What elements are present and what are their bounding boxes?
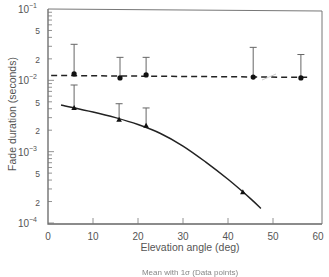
- y-tick-label: 5: [35, 98, 40, 108]
- circle-marker: [144, 72, 149, 77]
- y-tick-label: 10−1: [18, 2, 37, 15]
- triangle-marker: [143, 123, 149, 128]
- y-tick-label: 5: [35, 169, 40, 179]
- circle-marker: [251, 75, 256, 80]
- y-tick-label: 2: [35, 126, 40, 136]
- y-tick-label: 2: [35, 55, 40, 65]
- circle-marker: [72, 71, 77, 76]
- axis-lines: [48, 9, 322, 224]
- solid-fit-line: [61, 105, 261, 208]
- y-axis-label: Fade duration (seconds): [6, 44, 18, 184]
- fit-lines: [51, 75, 311, 208]
- chart-svg: 10−15210−25210−35210−4 0102030405060: [0, 0, 329, 277]
- y-tick-label: 2: [35, 198, 40, 208]
- circle-marker: [298, 75, 303, 80]
- x-tick-label: 10: [87, 231, 99, 242]
- y-tick-label: 10−2: [18, 73, 37, 86]
- y-tick-label: 10−3: [18, 145, 37, 158]
- error-bars: [71, 44, 305, 126]
- plot-frame: [48, 9, 322, 224]
- x-tick-label: 0: [45, 231, 51, 242]
- circle-marker: [117, 75, 122, 80]
- frame-top-right: [48, 9, 322, 224]
- x-axis-ticks: 0102030405060: [45, 218, 324, 242]
- y-tick-label: 5: [35, 26, 40, 36]
- y-tick-label: 10−4: [18, 216, 37, 229]
- data-markers: [71, 71, 303, 194]
- x-tick-label: 50: [267, 231, 279, 242]
- x-tick-label: 60: [312, 231, 324, 242]
- figure-caption: Mean with 1σ (Data points): [120, 268, 260, 277]
- x-axis-label: Elevation angle (deg): [120, 241, 260, 253]
